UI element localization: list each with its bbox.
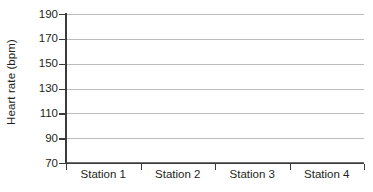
x-category-label-station-1: Station 1 xyxy=(66,166,141,182)
y-axis-tick xyxy=(59,14,65,15)
y-axis-spine xyxy=(65,13,67,164)
y-axis-tick xyxy=(59,113,65,114)
y-axis-title-text: Heart rate (bpm) xyxy=(5,39,17,125)
y-axis-tick-labels: 190 170 150 130 110 90 70 xyxy=(22,0,58,192)
y-tick-label: 130 xyxy=(24,83,58,95)
y-tick-label: 190 xyxy=(24,9,58,21)
y-axis-tick xyxy=(59,64,65,65)
gridline-150 xyxy=(66,64,364,65)
gridline-130 xyxy=(66,89,364,90)
y-tick-label: 170 xyxy=(24,33,58,45)
y-tick-label: 90 xyxy=(24,133,58,145)
gridline-110 xyxy=(66,113,364,114)
x-category-label-station-4: Station 4 xyxy=(290,166,365,182)
gridline-190 xyxy=(66,14,364,15)
y-axis-tick xyxy=(59,39,65,40)
x-category-label-station-3: Station 3 xyxy=(215,166,290,182)
y-axis-title: Heart rate (bpm) xyxy=(0,0,22,163)
y-tick-label: 70 xyxy=(24,158,58,170)
y-tick-label: 150 xyxy=(24,58,58,70)
x-axis-category-labels: Station 1 Station 2 Station 3 Station 4 xyxy=(66,166,364,186)
gridline-170 xyxy=(66,39,364,40)
plot-area xyxy=(66,14,364,163)
y-tick-label: 110 xyxy=(24,108,58,120)
x-category-label-station-2: Station 2 xyxy=(141,166,216,182)
y-axis-tick xyxy=(59,89,65,90)
gridline-90 xyxy=(66,138,364,139)
y-axis-tick xyxy=(59,163,65,164)
heart-rate-chart: Heart rate (bpm) 190 170 150 130 110 90 … xyxy=(0,0,373,192)
y-axis-tick xyxy=(59,138,65,139)
